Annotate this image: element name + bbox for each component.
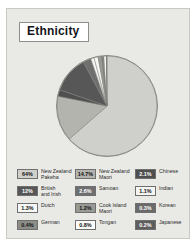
legend-label: British and Irish	[41, 186, 61, 197]
legend-swatch-value: 0.8%	[75, 220, 96, 230]
legend-label: Cook Island Maori	[99, 203, 126, 214]
legend-item: 2.1%Chinese	[135, 169, 193, 182]
legend-item: 0.8%Tongan	[75, 220, 133, 233]
legend-label: Tongan	[99, 220, 116, 226]
legend-label: Dutch	[41, 203, 55, 209]
legend-item: 2.6%Samoan	[75, 186, 133, 199]
legend-label: German	[41, 220, 60, 226]
legend-column: 64%New Zealand Pakeha12%British and Iris…	[17, 169, 75, 237]
legend-swatch-value: 0.3%	[135, 203, 156, 213]
legend-swatch-value: 2.1%	[135, 169, 156, 179]
page-title: Ethnicity	[19, 22, 89, 42]
legend-swatch-value: 64%	[17, 169, 38, 179]
legend-label: Indian	[159, 186, 173, 192]
legend-swatch-value: 2.6%	[75, 186, 96, 196]
legend-item: 64%New Zealand Pakeha	[17, 169, 75, 182]
pie-slice-group	[57, 56, 157, 156]
legend-column: 14.7%New Zealand Maori2.6%Samoan1.2%Cook…	[75, 169, 133, 237]
legend-item: 14.7%New Zealand Maori	[75, 169, 133, 182]
legend-label: New Zealand Maori	[99, 169, 130, 180]
legend-swatch-value: 0.2%	[135, 220, 156, 230]
legend-item: 1.2%Cook Island Maori	[75, 203, 133, 216]
legend-label: Japanese	[159, 220, 182, 226]
legend-label: Samoan	[99, 186, 118, 192]
legend-column: 2.1%Chinese1.1%Indian0.3%Korean0.2%Japan…	[135, 169, 193, 237]
legend-item: 0.3%Korean	[135, 203, 193, 216]
legend-item: 0.4%German	[17, 220, 75, 233]
legend-item: 0.2%Japanese	[135, 220, 193, 233]
legend-swatch-value: 1.1%	[135, 186, 156, 196]
pie-chart-svg	[51, 50, 163, 162]
legend-swatch-value: 14.7%	[75, 169, 96, 179]
legend-label: Chinese	[159, 169, 178, 175]
legend-swatch-value: 1.3%	[17, 203, 38, 213]
chart-panel: Ethnicity 64%New Zealand Pakeha12%Britis…	[6, 8, 190, 239]
legend-label: New Zealand Pakeha	[41, 169, 72, 180]
legend-swatch-value: 12%	[17, 186, 38, 196]
legend-item: 1.3%Dutch	[17, 203, 75, 216]
legend-swatch-value: 0.4%	[17, 220, 38, 230]
legend-item: 12%British and Irish	[17, 186, 75, 199]
pie-chart	[51, 50, 163, 162]
legend-swatch-value: 1.2%	[75, 203, 96, 213]
legend-item: 1.1%Indian	[135, 186, 193, 199]
legend-label: Korean	[159, 203, 176, 209]
